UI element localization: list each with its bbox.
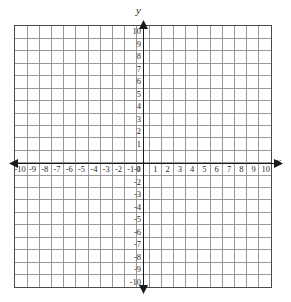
y-tick-label: -3 — [0, 190, 141, 199]
y-tick-label: 4 — [0, 102, 141, 111]
y-tick-label: -4 — [0, 202, 141, 211]
y-tick-label: 3 — [0, 114, 141, 123]
y-tick-label: -2 — [0, 177, 141, 186]
x-tick-label: 9 — [251, 165, 255, 174]
x-tick-label: 6 — [215, 165, 219, 174]
y-tick-label: 5 — [0, 89, 141, 98]
x-tick-label: 1 — [153, 165, 157, 174]
y-tick-label: -1 — [0, 165, 141, 174]
y-tick-label: -8 — [0, 252, 141, 261]
y-tick-label: 10 — [0, 27, 141, 36]
y-tick-label: -9 — [0, 265, 141, 274]
x-tick-label: 3 — [178, 165, 182, 174]
y-axis-name: y — [136, 4, 141, 16]
y-tick-label: 2 — [0, 127, 141, 136]
coordinate-grid-figure: -10-9-8-7-6-5-4-3-2-10123456789101098765… — [0, 0, 291, 302]
y-tick-label: -6 — [0, 227, 141, 236]
x-axis-name: x — [276, 155, 281, 167]
y-tick-label: -10 — [0, 277, 141, 286]
x-tick-label: 5 — [202, 165, 206, 174]
y-tick-label: -7 — [0, 240, 141, 249]
x-tick-label: 2 — [165, 165, 169, 174]
x-tick-label: 4 — [190, 165, 194, 174]
y-tick-label: 8 — [0, 52, 141, 61]
x-tick-label: 8 — [239, 165, 243, 174]
y-tick-label: 9 — [0, 39, 141, 48]
y-tick-label: 7 — [0, 64, 141, 73]
x-tick-label: 7 — [227, 165, 231, 174]
y-tick-label: 6 — [0, 77, 141, 86]
y-tick-label: -5 — [0, 215, 141, 224]
x-tick-label: 10 — [262, 165, 271, 174]
y-tick-label: 1 — [0, 139, 141, 148]
